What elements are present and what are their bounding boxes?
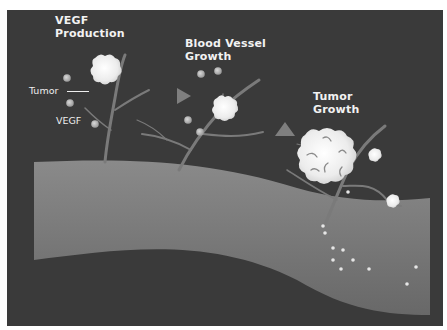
stage-label-blood-vessel-growth: Blood Vessel Growth bbox=[185, 37, 266, 63]
stage-label-vegf-production: VEGF Production bbox=[55, 14, 125, 40]
stage-label-tumor-growth: Tumor Growth bbox=[313, 90, 359, 116]
callout-tumor-line bbox=[67, 91, 89, 92]
callout-tumor-label: Tumor bbox=[29, 85, 58, 96]
stage-arrow-1 bbox=[177, 88, 191, 104]
blood-vessel bbox=[34, 160, 430, 315]
vessel-branch-stage2 bbox=[137, 80, 263, 170]
callout-vegf-label: VEGF bbox=[56, 115, 81, 126]
vegf-molecules bbox=[63, 67, 222, 136]
tumor-stage3 bbox=[297, 128, 356, 184]
tumor-satellite-1 bbox=[368, 148, 381, 161]
stage-arrow-2 bbox=[275, 122, 295, 136]
angiogenesis-diagram: VEGF Production Blood Vessel Growth Tumo… bbox=[7, 10, 443, 326]
